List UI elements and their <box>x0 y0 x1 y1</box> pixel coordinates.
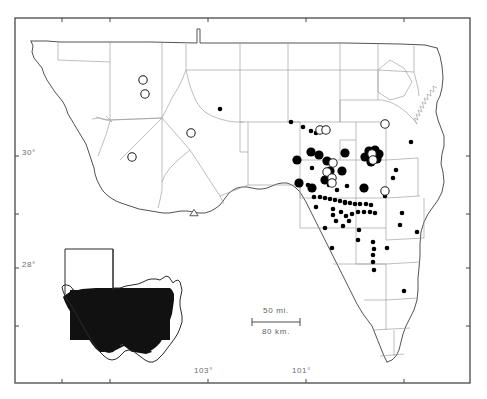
locality-filled-circle <box>345 184 350 189</box>
locality-filled-circle <box>335 188 340 193</box>
locality-filled-circle <box>415 230 420 235</box>
locality-filled-circle <box>340 148 349 157</box>
locality-filled-circle <box>294 178 303 187</box>
locality-filled-circle <box>341 224 346 229</box>
locality-filled-circle <box>310 166 315 171</box>
longitude-label-101: 101° <box>292 366 311 375</box>
locality-filled-circle <box>334 219 339 224</box>
locality-filled-circle <box>339 210 344 215</box>
locality-open-circle <box>141 90 149 98</box>
locality-filled-circle <box>333 198 338 203</box>
locality-filled-circle <box>385 246 390 251</box>
locality-open-circle <box>139 76 147 84</box>
locality-filled-circle <box>347 219 352 224</box>
locality-filled-circle <box>348 201 353 206</box>
latitude-label-28: 28° <box>22 260 36 269</box>
locality-filled-circle <box>398 223 403 228</box>
locality-filled-circle <box>353 202 358 207</box>
locality-filled-circle <box>314 205 319 210</box>
longitude-label-103: 103° <box>194 366 213 375</box>
locality-filled-circle <box>344 214 349 219</box>
locality-filled-circle <box>364 202 369 207</box>
locality-filled-circle <box>289 120 294 125</box>
scale-bar-km-label: 80 km. <box>246 327 306 336</box>
texas-state-inset <box>62 249 182 362</box>
locality-filled-circle <box>307 183 316 192</box>
locality-filled-circle <box>330 246 335 251</box>
locality-filled-circle <box>343 201 348 206</box>
locality-filled-circle <box>306 147 315 156</box>
locality-filled-circle <box>350 212 355 217</box>
locality-filled-circle <box>338 199 343 204</box>
scale-bar-miles-label: 50 mi. <box>246 306 306 315</box>
locality-filled-circle <box>314 150 323 159</box>
scale-bar-line <box>252 318 300 326</box>
locality-filled-circle <box>301 125 306 130</box>
distribution-map-figure: 30° 28° 103° 101° 50 mi. 80 km. <box>0 0 487 399</box>
locality-open-circle <box>329 159 337 167</box>
scale-bar-km: 80 km. <box>246 327 306 336</box>
locality-filled-circle <box>358 202 363 207</box>
locality-filled-circle <box>312 195 317 200</box>
locality-filled-circle <box>372 268 377 273</box>
locality-filled-circle <box>371 240 376 245</box>
locality-filled-circle <box>318 195 323 200</box>
locality-filled-circle <box>218 107 223 112</box>
locality-open-circle <box>381 187 389 195</box>
locality-filled-circle <box>402 289 407 294</box>
latitude-label-30: 30° <box>22 148 36 157</box>
locality-filled-circle <box>368 210 373 215</box>
locality-filled-circle <box>409 140 414 145</box>
locality-filled-circle <box>323 226 328 231</box>
locality-filled-circle <box>362 210 367 215</box>
locality-filled-circle <box>371 253 376 258</box>
locality-filled-circle <box>400 211 405 216</box>
locality-filled-circle <box>292 155 301 164</box>
locality-filled-circle <box>328 197 333 202</box>
locality-filled-circle <box>371 260 376 265</box>
locality-filled-circle <box>331 207 336 212</box>
locality-symbol-layer <box>128 76 420 294</box>
locality-filled-circle <box>394 168 399 173</box>
locality-filled-circle <box>356 238 361 243</box>
locality-open-circle <box>187 129 195 137</box>
locality-filled-circle <box>391 176 396 181</box>
locality-filled-circle <box>331 213 336 218</box>
locality-filled-circle <box>359 183 368 192</box>
series-open-circle <box>128 76 389 195</box>
locality-filled-circle <box>373 211 378 216</box>
locality-filled-circle <box>357 228 362 233</box>
locality-filled-circle <box>337 166 346 175</box>
locality-open-circle <box>369 156 377 164</box>
locality-open-circle <box>128 153 136 161</box>
locality-filled-circle <box>372 247 377 252</box>
scale-bar-miles: 50 mi. <box>246 306 306 315</box>
locality-open-circle <box>328 179 336 187</box>
locality-open-circle <box>322 126 330 134</box>
map-canvas <box>0 0 487 399</box>
locality-open-circle <box>381 120 389 128</box>
locality-filled-circle <box>323 196 328 201</box>
locality-filled-circle <box>309 129 314 134</box>
locality-filled-circle <box>356 210 361 215</box>
locality-filled-circle <box>369 203 374 208</box>
